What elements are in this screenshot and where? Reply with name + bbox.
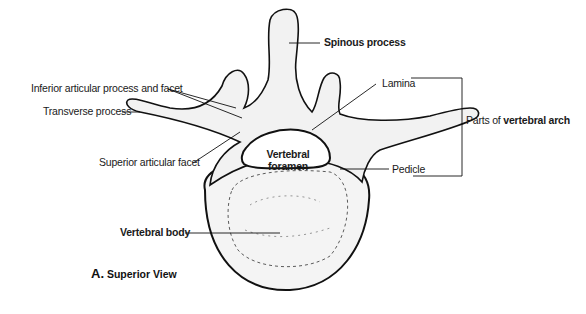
label-vertebral-foramen: Vertebral foramen — [258, 148, 318, 172]
parts-prefix: Parts of — [466, 114, 503, 126]
foramen-line-2: foramen — [258, 160, 318, 172]
label-parts-of-vertebral-arch: Parts of vertebral arch — [466, 114, 570, 126]
caption-letter: A. — [91, 266, 104, 281]
label-vertebral-body: Vertebral body — [120, 226, 190, 238]
label-superior-articular-facet: Superior articular facet — [99, 156, 200, 168]
label-transverse-process: Transverse process — [43, 105, 131, 117]
label-spinous-process: Spinous process — [324, 36, 406, 48]
foramen-line-1: Vertebral — [258, 148, 318, 160]
parts-bold: vertebral arch — [503, 114, 570, 126]
label-pedicle: Pedicle — [392, 163, 425, 175]
caption-text: Superior View — [107, 268, 177, 280]
vertebral-body-shape — [204, 156, 369, 290]
label-lamina: Lamina — [382, 77, 415, 89]
label-inferior-articular-process: Inferior articular process and facet — [31, 82, 183, 94]
figure-caption: A. Superior View — [91, 266, 177, 281]
